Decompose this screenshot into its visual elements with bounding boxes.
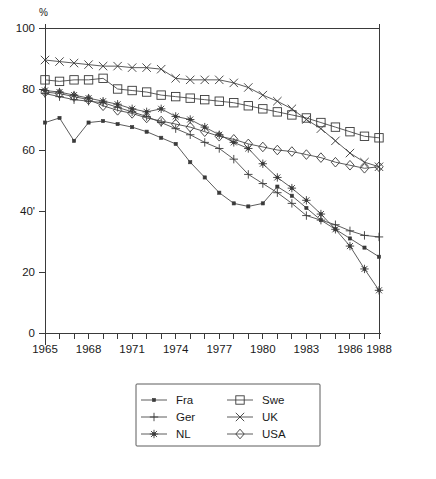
y-axis-unit-label: % [39,7,48,18]
marker-uk-1978 [230,79,238,87]
marker-fra-1979 [247,205,250,208]
marker-ger-1986 [346,227,354,235]
x-tick-label-1971: 1971 [119,343,145,355]
marker-uk-1987 [360,158,368,166]
x-tick-label-1968: 1968 [76,343,102,355]
marker-fra-1981 [276,185,279,188]
marker-uk-1979 [244,83,252,91]
y-tick-label-40: 40' [20,205,35,217]
marker-fra-1966 [58,116,61,119]
marker-uk-1986 [346,149,354,157]
marker-fra-1983 [305,206,308,209]
marker-uk-1985 [331,137,339,145]
marker-nl-1984-core [320,213,323,216]
marker-fra-1977 [218,191,221,194]
series-swe [41,74,383,142]
marker-nl-1988-core [378,289,381,292]
x-tick-label-1988: 1988 [366,343,392,355]
marker-fra-1970 [116,122,119,125]
legend-marker-fra [152,398,155,401]
marker-uk-1982 [288,105,296,113]
marker-nl-1981-core [276,176,279,179]
legend-label-usa: USA [262,428,286,440]
series-line-usa [45,92,379,168]
marker-nl-1965-core [44,89,47,92]
marker-fra-1974 [174,142,177,145]
marker-fra-1968 [87,121,90,124]
marker-fra-1971 [131,126,134,129]
marker-uk-1980 [259,91,267,99]
marker-fra-1978 [232,202,235,205]
series-uk [41,56,383,171]
series-line-fra [45,118,379,257]
legend-box [136,384,320,446]
marker-nl-1982-core [291,187,294,190]
marker-nl-1985-core [334,228,337,231]
y-tick-label-20: 20 [22,266,35,278]
marker-nl-1966-core [58,91,61,94]
legend-label-ger: Ger [176,411,195,423]
legend-label-fra: Fra [176,394,194,406]
marker-fra-1965 [43,121,46,124]
series-line-ger [45,94,379,237]
series-ger [41,89,383,241]
series-line-swe [45,78,379,137]
marker-uk-1981 [273,97,281,105]
x-tick-label-1980: 1980 [250,343,276,355]
marker-fra-1972 [145,130,148,133]
y-tick-label-80: 80 [22,83,35,95]
marker-nl-1987-core [363,268,366,271]
y-tick-label-100: 100 [16,22,35,34]
marker-ger-1987 [360,231,368,239]
chart-legend: FraSweGerUKNLUSA [136,384,320,446]
marker-nl-1980-core [262,162,265,165]
marker-fra-1982 [290,194,293,197]
legend-label-swe: Swe [262,394,284,406]
x-tick-label-1986: 1986 [337,343,363,355]
x-tick-label-1983: 1983 [294,343,320,355]
marker-nl-1986-core [349,245,352,248]
legend-label-uk: UK [262,411,278,423]
marker-ger-1977 [215,144,223,152]
series-line-uk [45,60,379,167]
legend-label-nl: NL [176,428,191,440]
y-tick-label-0: 0 [29,327,35,339]
marker-uk-1984 [317,124,325,132]
marker-ger-1988 [375,233,383,241]
x-tick-label-1977: 1977 [206,343,232,355]
marker-nl-1974-core [174,115,177,118]
marker-fra-1976 [203,176,206,179]
marker-ger-1976 [201,138,209,146]
marker-fra-1969 [101,119,104,122]
axes: 02040'6080100%19651968197119741977198019… [16,7,392,355]
y-tick-label-60: 60 [22,144,35,156]
x-tick-label-1965: 1965 [32,343,58,355]
marker-nl-1975-core [189,118,192,121]
marker-fra-1975 [189,161,192,164]
chart-container: 02040'6080100%19651968197119741977198019… [0,0,436,479]
marker-fra-1988 [377,255,380,258]
legend-marker-nl-core [153,433,156,436]
series-line-nl [45,91,379,291]
data-series [41,56,383,295]
marker-ger-1980 [259,179,267,187]
series-fra [43,116,380,258]
marker-fra-1967 [72,139,75,142]
marker-nl-1973-core [160,108,163,111]
line-chart: 02040'6080100%19651968197119741977198019… [0,0,436,479]
marker-nl-1983-core [305,199,308,202]
marker-fra-1973 [160,136,163,139]
marker-fra-1980 [261,202,264,205]
marker-fra-1986 [348,237,351,240]
marker-fra-1987 [363,246,366,249]
series-nl [41,86,383,294]
x-tick-label-1974: 1974 [163,343,189,355]
